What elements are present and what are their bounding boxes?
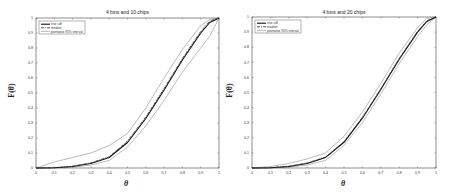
y-tick-label: 0.7 — [244, 61, 249, 65]
x-tick-label: 0.1 — [268, 171, 273, 175]
y-tick-label: 1 — [247, 15, 249, 19]
chart-right: 4 bins and 20 chips F(θ) θ 00.10.20.30.4… — [0, 0, 450, 195]
y-tick-label: 0.2 — [244, 136, 249, 140]
x-tick-label: 0 — [251, 171, 253, 175]
plot-area: 00.10.20.30.40.50.60.70.80.9100.10.20.30… — [0, 0, 450, 195]
y-tick-label: 0.4 — [244, 106, 249, 110]
y-tick-label: 0.9 — [244, 30, 249, 34]
x-tick-label: 0.9 — [415, 171, 420, 175]
x-tick-label: 0.2 — [286, 171, 291, 175]
x-tick-label: 0.3 — [305, 171, 310, 175]
legend-label: pointwise 95% interval — [267, 29, 299, 33]
y-tick-label: 0 — [247, 166, 249, 170]
x-tick-label: 0.5 — [342, 171, 347, 175]
x-tick-label: 0.7 — [378, 171, 383, 175]
y-tick-label: 0.3 — [244, 121, 249, 125]
x-tick-label: 0.6 — [360, 171, 365, 175]
y-tick-label: 0.6 — [244, 76, 249, 80]
x-tick-label: 1 — [435, 171, 437, 175]
x-tick-label: 0.4 — [323, 171, 328, 175]
x-tick-label: 0.8 — [397, 171, 402, 175]
y-tick-label: 0.8 — [244, 45, 249, 49]
y-tick-label: 0.1 — [244, 151, 249, 155]
y-tick-label: 0.5 — [244, 91, 249, 95]
series-line — [252, 17, 436, 168]
